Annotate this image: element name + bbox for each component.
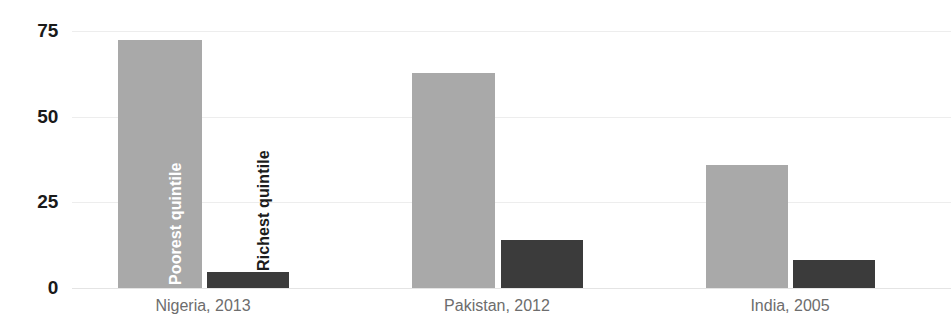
bar-richest-india[interactable] [793, 260, 875, 288]
y-axis-tick-label-75: 75 [12, 21, 58, 40]
gridline-0 [72, 288, 951, 289]
bar-richest-nigeria[interactable] [207, 272, 289, 288]
category-label-nigeria: Nigeria, 2013 [103, 296, 303, 315]
category-label-india: India, 2005 [690, 296, 890, 315]
series-label-poorest: Poorest quintile [168, 163, 184, 286]
gridline-75 [72, 31, 951, 32]
y-axis-tick-label-0: 0 [12, 278, 58, 297]
bar-poorest-nigeria[interactable] [118, 40, 202, 288]
bar-richest-pakistan[interactable] [501, 240, 583, 288]
y-axis-tick-label-50: 50 [12, 107, 58, 126]
gridline-50 [72, 117, 951, 118]
category-label-pakistan: Pakistan, 2012 [397, 296, 597, 315]
y-axis-tick-label-25: 25 [12, 192, 58, 211]
series-label-richest: Richest quintile [256, 150, 272, 271]
bar-poorest-india[interactable] [706, 165, 788, 288]
plot-area: 75 50 25 0 Poorest quintile Richest quin… [0, 0, 951, 333]
bar-poorest-pakistan[interactable] [412, 73, 495, 288]
bar-chart: 75 50 25 0 Poorest quintile Richest quin… [0, 0, 951, 333]
gridline-25 [72, 202, 951, 203]
